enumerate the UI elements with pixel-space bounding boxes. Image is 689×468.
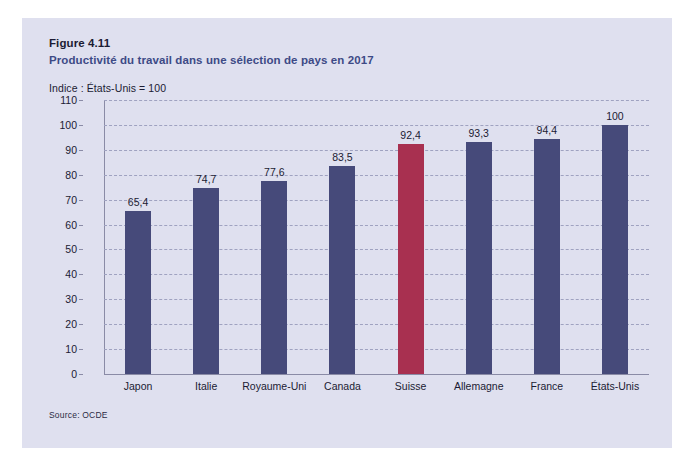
x-axis-labels: JaponItalieRoyaume-UniCanadaSuisseAllema… <box>104 380 649 400</box>
y-tick-mark <box>79 299 83 300</box>
bar-value-label: 94,4 <box>537 124 557 136</box>
bars-layer: 65,474,777,683,592,493,394,4100 <box>104 100 649 374</box>
y-tick-mark <box>79 274 83 275</box>
y-tick-mark <box>79 349 83 350</box>
bar-group[interactable]: 92,4 <box>377 100 445 374</box>
x-axis-label: Suisse <box>395 380 427 392</box>
bar-value-label: 83,5 <box>332 151 352 163</box>
y-tick-label: 0 <box>71 368 77 380</box>
x-axis-label: Royaume-Uni <box>242 380 306 392</box>
bar-group[interactable]: 83,5 <box>308 100 376 374</box>
bar[interactable] <box>193 188 219 374</box>
figure-number: Figure 4.11 <box>49 36 374 51</box>
x-axis-label: Allemagne <box>454 380 504 392</box>
bar-value-label: 77,6 <box>264 166 284 178</box>
y-tick-mark <box>79 175 83 176</box>
x-axis-label: États-Unis <box>591 380 639 392</box>
bar[interactable] <box>602 125 628 374</box>
y-tick-mark <box>79 249 83 250</box>
bar[interactable] <box>125 211 151 374</box>
y-tick-mark <box>79 374 83 375</box>
bar[interactable] <box>534 139 560 374</box>
bar-group[interactable]: 94,4 <box>513 100 581 374</box>
y-tick-mark <box>79 100 83 101</box>
bar-group[interactable]: 100 <box>581 100 649 374</box>
x-axis-label: Japon <box>124 380 153 392</box>
y-tick-mark <box>79 200 83 201</box>
y-tick-label: 40 <box>65 268 77 280</box>
y-tick-label: 110 <box>60 94 77 106</box>
y-tick-label: 70 <box>65 194 77 206</box>
y-tick-label: 50 <box>65 243 77 255</box>
y-tick-label: 100 <box>59 119 77 131</box>
y-tick-mark <box>79 225 83 226</box>
y-tick-label: 10 <box>65 343 77 355</box>
index-note: Indice : États-Unis = 100 <box>49 82 166 94</box>
bar-value-label: 92,4 <box>400 129 420 141</box>
y-tick-label: 30 <box>65 293 77 305</box>
bar-value-label: 100 <box>606 110 624 122</box>
y-tick-label: 20 <box>65 318 77 330</box>
bar-group[interactable]: 65,4 <box>104 100 172 374</box>
bar[interactable] <box>398 144 424 374</box>
title-block: Figure 4.11 Productivité du travail dans… <box>49 36 374 68</box>
x-axis-line <box>104 374 649 375</box>
bar-group[interactable]: 74,7 <box>172 100 240 374</box>
y-tick-mark <box>79 125 83 126</box>
x-axis-label: France <box>530 380 563 392</box>
x-axis-label: Canada <box>324 380 361 392</box>
y-axis: 0102030405060708090100110 <box>49 100 83 374</box>
y-tick-mark <box>79 324 83 325</box>
bar-value-label: 93,3 <box>468 127 488 139</box>
bar[interactable] <box>466 142 492 374</box>
figure-subtitle: Productivité du travail dans une sélecti… <box>49 52 374 68</box>
plot-area: 65,474,777,683,592,493,394,4100 <box>104 100 649 374</box>
bar-value-label: 74,7 <box>196 173 216 185</box>
source-note: Source: OCDE <box>49 410 108 420</box>
y-tick-label: 90 <box>65 144 77 156</box>
bar[interactable] <box>261 181 287 374</box>
bar-group[interactable]: 93,3 <box>445 100 513 374</box>
y-tick-label: 60 <box>65 219 77 231</box>
x-axis-label: Italie <box>195 380 217 392</box>
figure-panel: Figure 4.11 Productivité du travail dans… <box>22 18 672 448</box>
bar-chart: 0102030405060708090100110 65,474,777,683… <box>49 100 649 396</box>
y-tick-label: 80 <box>65 169 77 181</box>
bar[interactable] <box>329 166 355 374</box>
y-tick-mark <box>79 150 83 151</box>
bar-group[interactable]: 77,6 <box>240 100 308 374</box>
bar-value-label: 65,4 <box>128 196 148 208</box>
